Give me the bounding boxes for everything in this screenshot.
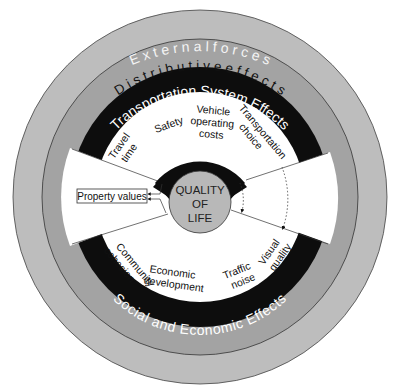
svg-text:costs: costs: [199, 127, 224, 141]
quality-of-life-diagram: E x t e r n a l f o r c e s D i s t r i …: [0, 0, 399, 391]
center-line-3: LIFE: [188, 212, 213, 224]
property-values-box: Property values: [77, 189, 147, 203]
center-line-1: QUALITY: [175, 184, 225, 196]
center-line-2: OF: [192, 198, 208, 210]
property-values-label: Property values: [77, 191, 146, 202]
